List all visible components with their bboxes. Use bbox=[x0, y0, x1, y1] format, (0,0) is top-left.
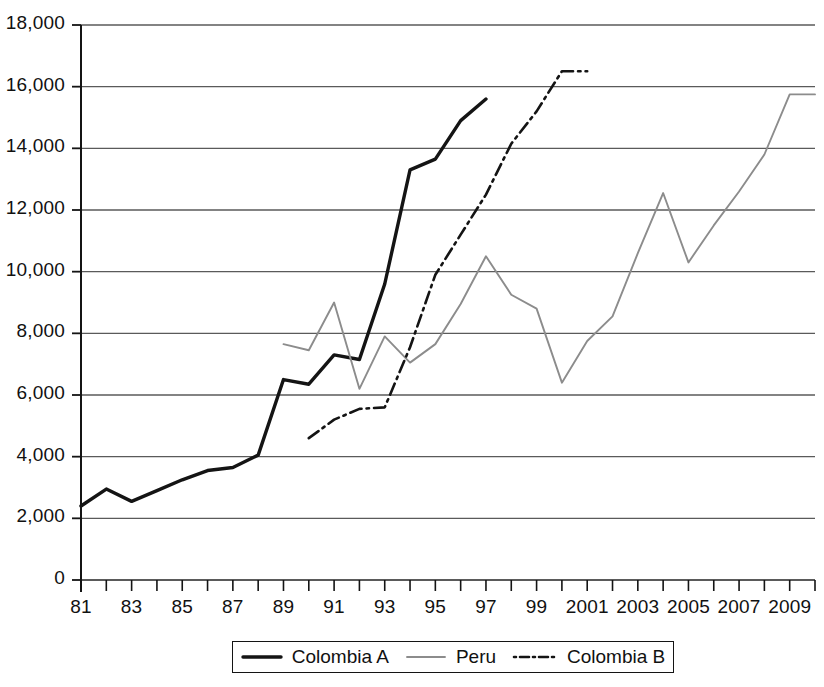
y-axis-tick-label: 18,000 bbox=[6, 12, 65, 34]
y-axis-tick-label: 2,000 bbox=[16, 505, 65, 527]
y-axis-tick-label: 16,000 bbox=[6, 74, 65, 96]
y-axis-tick-label: 8,000 bbox=[16, 320, 65, 342]
chart-legend: Colombia APeruColombia B bbox=[232, 641, 674, 673]
x-axis-tick-label: 2009 bbox=[755, 596, 824, 618]
legend-label: Colombia A bbox=[292, 646, 389, 668]
legend-label: Peru bbox=[456, 646, 496, 668]
y-axis-tick-label: 12,000 bbox=[6, 197, 65, 219]
legend-swatch-dashdot bbox=[512, 651, 558, 663]
y-axis-tick-label: 6,000 bbox=[16, 382, 65, 404]
chart-plot-area bbox=[0, 0, 824, 687]
legend-item-colombia-a: Colombia A bbox=[241, 646, 389, 668]
y-axis-tick-label: 4,000 bbox=[16, 444, 65, 466]
series-line-colombia-b bbox=[309, 71, 587, 438]
y-axis-tick-label: 14,000 bbox=[6, 135, 65, 157]
legend-item-colombia-b: Colombia B bbox=[512, 646, 665, 668]
legend-swatch-solid-thin bbox=[405, 651, 447, 663]
chart-container: 02,0004,0006,0008,00010,00012,00014,0001… bbox=[0, 0, 824, 687]
legend-swatch-solid-thick bbox=[241, 651, 283, 663]
y-axis-tick-label: 0 bbox=[54, 567, 65, 589]
y-axis-tick-label: 10,000 bbox=[6, 259, 65, 281]
legend-item-peru: Peru bbox=[405, 646, 496, 668]
legend-label: Colombia B bbox=[567, 646, 665, 668]
